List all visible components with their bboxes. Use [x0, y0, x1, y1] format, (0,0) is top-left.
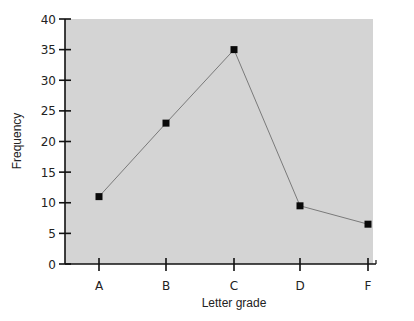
- y-tick-label: 10: [41, 196, 56, 210]
- y-tick-label: 5: [48, 227, 56, 241]
- data-point-marker: [365, 221, 372, 228]
- y-tick-label: 25: [41, 104, 56, 118]
- line-chart: 0510152025303540 ABCDF Frequency Letter …: [0, 0, 414, 321]
- data-point-marker: [163, 120, 170, 127]
- y-tick-label: 0: [48, 258, 56, 272]
- x-axis-title: Letter grade: [202, 296, 267, 310]
- x-tick-label: C: [230, 279, 238, 293]
- x-tick-label: B: [162, 279, 170, 293]
- data-point-marker: [297, 202, 304, 209]
- y-tick-label: 20: [41, 135, 56, 149]
- y-tick-label: 30: [41, 74, 56, 88]
- data-point-marker: [96, 193, 103, 200]
- y-tick-label: 35: [41, 43, 56, 57]
- x-tick-label: D: [295, 279, 304, 293]
- data-point-marker: [231, 46, 238, 53]
- y-tick-label: 40: [41, 13, 56, 27]
- y-axis-title: Frequency: [10, 113, 24, 170]
- plot-area: [65, 19, 373, 264]
- x-tick-label: F: [365, 279, 372, 293]
- y-tick-label: 15: [41, 166, 56, 180]
- x-axis: ABCDF: [65, 258, 376, 293]
- x-tick-label: A: [95, 279, 104, 293]
